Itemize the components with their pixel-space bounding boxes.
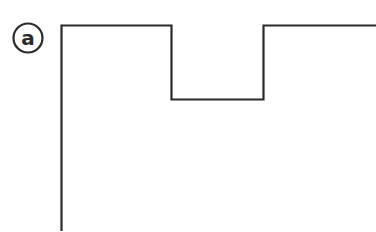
notched-outline [62, 26, 376, 232]
label-letter: a [21, 26, 35, 50]
panel-label: a [14, 24, 43, 53]
figure-canvas: a [0, 0, 376, 231]
